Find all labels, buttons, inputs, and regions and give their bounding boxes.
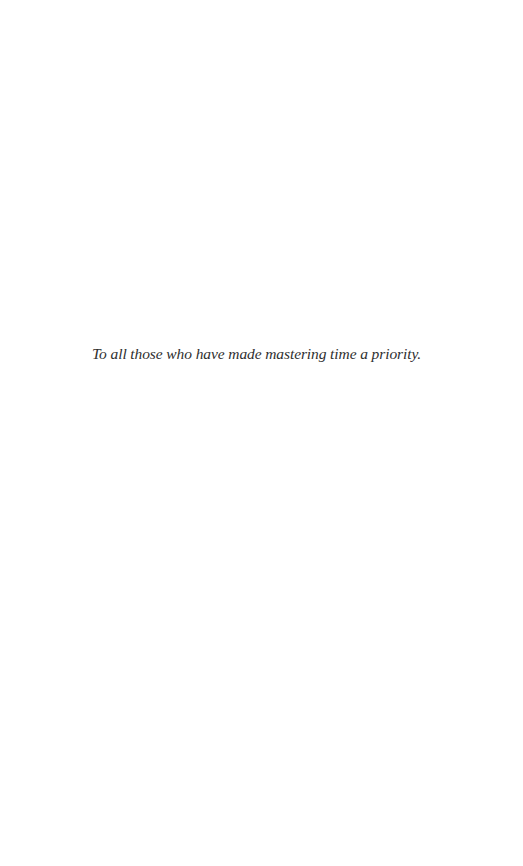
dedication-text: To all those who have made mastering tim… (92, 344, 412, 364)
book-page: To all those who have made mastering tim… (0, 0, 523, 866)
